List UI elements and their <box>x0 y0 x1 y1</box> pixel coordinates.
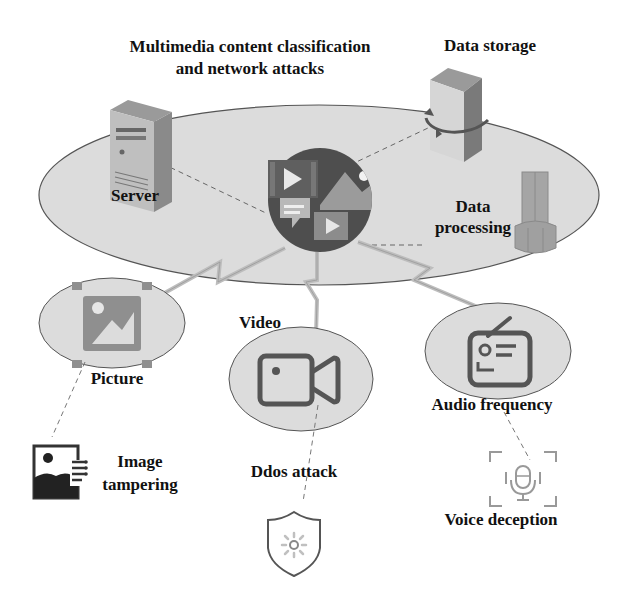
server-label: Server <box>100 186 170 206</box>
data-storage-icon <box>424 68 488 162</box>
ddos-shield-icon <box>268 512 320 576</box>
picture-label: Picture <box>82 369 152 389</box>
video-ellipse <box>229 327 373 431</box>
connector-picture-tampering <box>52 362 85 437</box>
diagram-svg <box>0 0 622 593</box>
voice-deception-icon <box>490 452 556 506</box>
data-processing-label: Data processing <box>418 196 528 238</box>
voice-deception-label: Voice deception <box>426 510 576 530</box>
image-tampering-icon <box>34 446 88 498</box>
title-line-2: and network attacks <box>95 58 405 80</box>
connector-audio-voice <box>504 412 530 460</box>
image-tampering-line-1: Image <box>90 450 190 473</box>
diagram-title: Multimedia content classification and ne… <box>95 36 405 80</box>
data-storage-label: Data storage <box>430 36 550 56</box>
audio-frequency-label: Audio frequency <box>412 395 572 415</box>
image-tampering-label: Image tampering <box>90 450 190 496</box>
video-label: Video <box>230 313 290 333</box>
image-tampering-line-2: tampering <box>90 473 190 496</box>
data-processing-line-2: processing <box>418 217 528 238</box>
diagram-canvas: Multimedia content classification and ne… <box>0 0 622 593</box>
ddos-attack-label: Ddos attack <box>236 462 352 482</box>
data-processing-line-1: Data <box>418 196 528 217</box>
title-line-1: Multimedia content classification <box>95 36 405 58</box>
